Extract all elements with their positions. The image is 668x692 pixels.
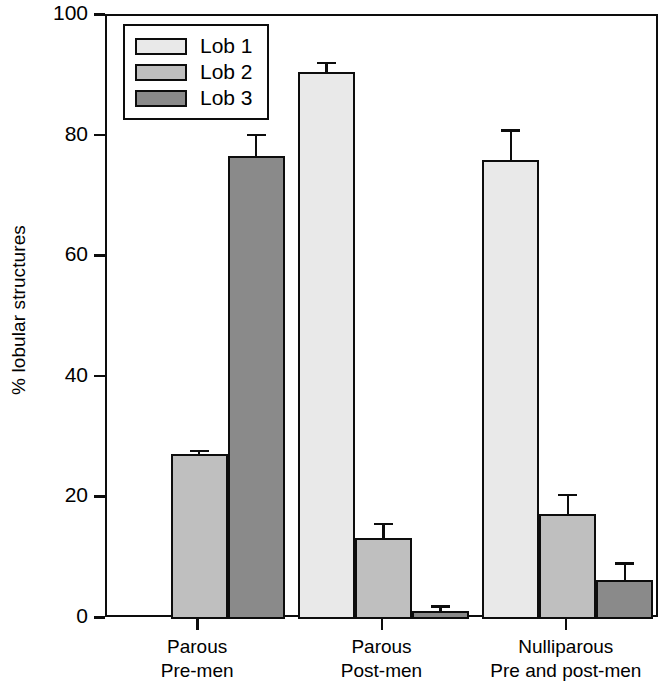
error-bar-cap [374,523,393,526]
error-bar-cap [317,62,336,65]
y-tick-mark [94,13,105,16]
y-tick-mark [94,134,105,137]
bar [482,160,539,619]
bar [228,156,285,619]
y-axis-title-text: % lobular structures [8,225,30,395]
legend: Lob 1Lob 2Lob 3 [123,24,269,120]
legend-swatch [135,38,187,55]
error-bar-stem [624,562,627,579]
y-tick-label: 60 [65,241,88,267]
error-bar-cap [615,562,634,565]
legend-label: Lob 1 [200,35,253,57]
y-axis-title: % lobular structures [0,0,38,620]
y-tick-label: 100 [53,0,88,26]
x-tick-mark [565,617,568,630]
error-bar-cap [190,450,209,453]
legend-item: Lob 1 [135,33,253,59]
legend-swatch [135,90,187,107]
bar [171,454,228,619]
y-tick-mark [94,495,105,498]
y-tick-mark [94,254,105,257]
bar [539,514,596,619]
x-tick-mark [381,617,384,630]
legend-label: Lob 2 [200,61,253,83]
error-bar-stem [567,494,570,515]
bar [596,580,653,619]
legend-swatch [135,64,187,81]
error-bar-cap [501,129,520,132]
legend-item: Lob 2 [135,59,253,85]
bar-chart: % lobular structures 020406080100 Parous… [0,0,668,692]
bar [298,72,355,619]
y-tick-label: 40 [65,362,88,388]
error-bar-stem [255,134,258,157]
error-bar-stem [510,129,513,159]
error-bar-cap [558,494,577,497]
y-tick-label: 20 [65,482,88,508]
x-tick-mark [196,617,199,630]
y-tick-mark [94,616,105,619]
bar [355,538,412,619]
bar [412,611,469,619]
error-bar-cap [431,605,450,608]
error-bar-cap [247,134,266,137]
y-tick-label: 0 [76,603,88,629]
legend-item: Lob 3 [135,85,253,111]
legend-label: Lob 3 [200,87,253,109]
y-tick-label: 80 [65,121,88,147]
y-tick-mark [94,375,105,378]
x-tick-label: Nulliparous Pre and post-men [436,635,668,683]
